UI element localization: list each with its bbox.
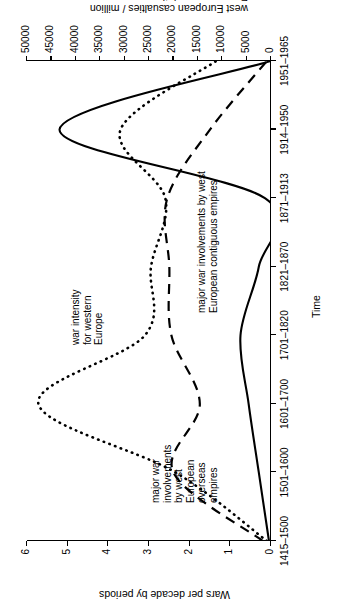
y2-tick-label-4: 20000 [167, 9, 177, 53]
y2-tick-label-2: 10000 [216, 9, 226, 53]
x-tick-label-0: 1415–1500 [279, 511, 290, 571]
x-tick-5 [271, 197, 276, 198]
chart-figure: 0 1 2 3 4 5 6 0 5000 10000 15000 20000 2… [0, 0, 344, 613]
x-tick-2 [271, 403, 276, 404]
annotation-overseas-empires-line-4: overseas [196, 445, 208, 503]
rotated-figure-wrapper: 0 1 2 3 4 5 6 0 5000 10000 15000 20000 2… [0, 0, 344, 613]
annotation-overseas-empires-line-0: major war [150, 445, 162, 503]
x-tick-0 [271, 540, 276, 541]
x-tick-label-2: 1601–1700 [279, 374, 290, 434]
y2-tick-label-3: 15000 [192, 9, 202, 53]
y-tick-1 [229, 541, 230, 546]
y2-tick-label-9: 45000 [45, 9, 55, 53]
y-tick-5 [67, 541, 68, 546]
annotation-war-intensity-line-2: Europe [93, 289, 105, 345]
y2-tick-label-7: 35000 [94, 9, 104, 53]
annotation-overseas-empires-line-5: empires [208, 445, 220, 503]
x-tick-label-3: 1701–1820 [279, 305, 290, 365]
x-tick-label-7: 1951–1965 [279, 31, 290, 91]
y-tick-4 [107, 541, 108, 546]
annotation-overseas-empires-line-3: European [185, 445, 197, 503]
x-tick-label-4: 1821–1870 [279, 237, 290, 297]
y-tick-label-0: 0 [265, 549, 275, 587]
x-tick-6 [271, 128, 276, 129]
secondary-y-axis-title-line1: west European casualties / million [90, 3, 248, 15]
y2-tick-label-1: 5000 [241, 9, 251, 53]
x-tick-4 [271, 266, 276, 267]
y-tick-label-6: 6 [21, 549, 31, 587]
series-curves [27, 61, 271, 541]
secondary-y-axis-title: west European casualties / million Europ… [90, 0, 248, 15]
x-tick-label-6: 1914–1950 [279, 100, 290, 160]
y2-tick-label-6: 30000 [119, 9, 129, 53]
x-tick-label-1: 1501–1600 [279, 442, 290, 502]
x-tick-label-5: 1871–1913 [279, 168, 290, 228]
y-tick-6 [26, 541, 27, 546]
y-tick-0 [270, 541, 271, 546]
annotation-contiguous-empires-line-1: European contiguous empires [208, 171, 220, 313]
x-axis-title: Time [310, 0, 322, 613]
annotation-contiguous-empires-line-0: major war involvements by west [196, 171, 208, 313]
y-axis-title: Wars per decade by periods [99, 589, 230, 601]
annotation-war-intensity: war intensity for western Europe [70, 289, 105, 345]
y-tick-label-4: 4 [102, 549, 112, 587]
annotation-war-intensity-line-1: for western [82, 289, 94, 345]
annotation-overseas-empires-line-2: by west [173, 445, 185, 503]
x-tick-1 [271, 471, 276, 472]
annotation-war-intensity-line-0: war intensity [70, 289, 82, 345]
y-tick-2 [189, 541, 190, 546]
y-tick-label-1: 1 [224, 549, 234, 587]
y2-tick-label-10: 50000 [21, 9, 31, 53]
y-tick-label-3: 3 [143, 549, 153, 587]
y-tick-label-5: 5 [62, 549, 72, 587]
annotation-overseas-empires: major war involvements by west European … [150, 445, 219, 503]
x-tick-3 [271, 334, 276, 335]
annotation-contiguous-empires: major war involvements by west European … [196, 171, 219, 313]
y-tick-3 [148, 541, 149, 546]
y-tick-label-2: 2 [184, 549, 194, 587]
x-tick-7 [271, 60, 276, 61]
y2-tick-label-8: 40000 [70, 9, 80, 53]
y2-tick-label-0: 0 [265, 9, 275, 53]
annotation-overseas-empires-line-1: involvements [162, 445, 174, 503]
y2-tick-label-5: 25000 [143, 9, 153, 53]
